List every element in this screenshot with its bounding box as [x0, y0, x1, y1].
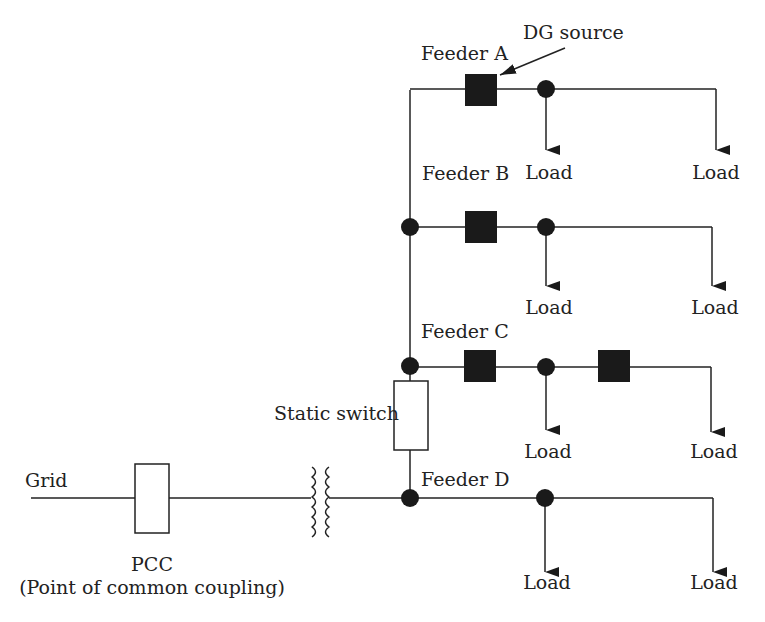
bus-node-d: [401, 489, 419, 507]
dg-source-label: DG source: [523, 23, 624, 42]
static-switch-label: Static switch: [274, 404, 399, 423]
static-switch: [394, 381, 428, 450]
load-b-2: Load: [691, 298, 739, 317]
bus-node-b-load: [537, 218, 555, 236]
bus-node-b: [401, 218, 419, 236]
bus-node-c-load: [537, 358, 555, 376]
bus-node-d-load: [536, 489, 554, 507]
dg-source-pointer: [500, 48, 565, 75]
load-c-1: Load: [524, 442, 572, 461]
dg-source-c1: [464, 350, 496, 382]
bus-node-a-load: [537, 80, 555, 98]
grid-label: Grid: [25, 471, 68, 490]
dg-source-b: [465, 211, 497, 243]
load-d-1: Load: [523, 573, 571, 592]
transformer-icon: [312, 467, 329, 537]
load-a-2: Load: [692, 163, 740, 182]
load-c-2: Load: [690, 442, 738, 461]
bus-node-c: [401, 357, 419, 375]
pcc-breaker: [135, 464, 169, 533]
load-b-1: Load: [525, 298, 573, 317]
load-a-1: Load: [525, 163, 573, 182]
feeder-d-label: Feeder D: [421, 470, 509, 489]
feeder-b-label: Feeder B: [422, 164, 509, 183]
dg-source-c2: [598, 350, 630, 382]
load-d-2: Load: [690, 573, 738, 592]
microgrid-diagram: [0, 0, 765, 622]
feeder-c-label: Feeder C: [421, 322, 509, 341]
dg-source-a: [465, 74, 497, 106]
pcc-label: PCC: [131, 555, 173, 574]
pcc-full-label: (Point of common coupling): [19, 578, 285, 597]
feeder-a-label: Feeder A: [421, 44, 508, 63]
